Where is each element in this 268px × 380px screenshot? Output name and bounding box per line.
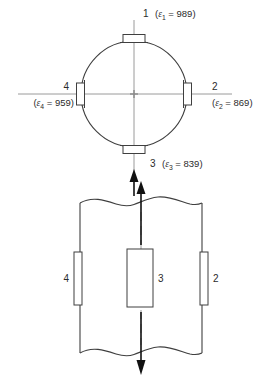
load-arrow-down-side-view [137,312,146,375]
gauge-1-strain-label: (ε1 = 989) [155,8,196,21]
load-arrow-up-side-view [137,181,146,245]
gauge-2-right [184,80,192,108]
gauge-2-side [200,252,208,305]
gauge-4-number-label: 4 [63,81,69,92]
gauge-4-left [77,80,85,108]
gauge-4-side-number-label: 4 [63,273,69,284]
gauge-3-side [127,249,153,307]
gauge-1-number-label: 1 [143,8,149,19]
gauge-4-side [74,252,82,305]
gauge-2-side-number-label: 2 [213,273,219,284]
center-crosshair-icon [130,90,138,98]
gauge-3-side-number-label: 3 [158,273,164,284]
gauge-3-number-label: 3 [150,158,156,169]
gauge-2-strain-label: (ε2 = 869) [212,97,253,110]
gauge-2-number-label: 2 [212,81,218,92]
gauge-3-strain-label: (ε3 = 839) [162,158,203,171]
strain-gauge-figure: 1 (ε1 = 989) 2 (ε2 = 869) 3 (ε3 = 839) 4… [0,0,268,380]
side-elevation-view: 4 2 3 [63,181,219,375]
load-arrow-up-top-view [130,169,139,196]
gauge-1-top [120,35,148,43]
gauge-3-bottom [120,146,148,154]
cross-section-view: 1 (ε1 = 989) 2 (ε2 = 869) 3 (ε3 = 839) 4… [18,8,253,196]
gauge-4-strain-label: (ε4 = 959) [33,97,74,110]
figure-canvas: 1 (ε1 = 989) 2 (ε2 = 869) 3 (ε3 = 839) 4… [0,0,268,380]
